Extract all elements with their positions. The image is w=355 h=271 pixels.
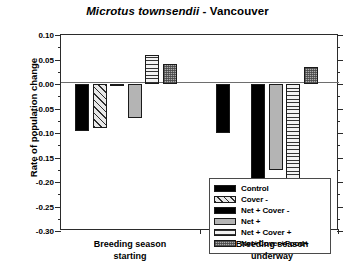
legend-swatch (214, 185, 236, 192)
y-tick-major-right (337, 84, 343, 85)
chart-figure: Microtus townsendii - Vancouver Rate of … (0, 0, 355, 271)
y-tick-minor-right (337, 72, 340, 73)
y-tick-major (55, 231, 61, 232)
y-tick-minor (58, 121, 61, 122)
y-tick-minor-right (337, 219, 340, 220)
y-tick-label: 0.10 (38, 31, 54, 40)
legend-swatch (214, 218, 236, 225)
bar (286, 84, 300, 187)
y-tick-major (55, 133, 61, 134)
y-tick-major (55, 182, 61, 183)
y-tick-minor-right (337, 47, 340, 48)
y-tick-major (55, 84, 61, 85)
y-tick-minor (58, 96, 61, 97)
y-tick-label: -0.10 (36, 129, 54, 138)
y-tick-label: 0.00 (38, 80, 54, 89)
y-tick-minor-right (337, 96, 340, 97)
y-tick-minor-right (337, 170, 340, 171)
legend-item: Net + Cover - (214, 205, 326, 216)
x-group-label-line: underway (202, 250, 342, 262)
bar (93, 84, 107, 128)
y-tick-major-right (337, 35, 343, 36)
x-tick (338, 229, 339, 234)
bar (110, 84, 124, 86)
x-group-label-line: starting (60, 250, 200, 262)
legend-label: Net + Cover - (241, 206, 289, 215)
legend-label: Control (241, 184, 269, 193)
zero-baseline (61, 82, 339, 83)
y-tick-minor (58, 219, 61, 220)
y-tick-label: -0.25 (36, 202, 54, 211)
x-group-label: Breeding seasonstarting (60, 238, 200, 262)
y-tick-label: -0.20 (36, 178, 54, 187)
legend-swatch (214, 196, 236, 203)
chart-title-suffix: - Vancouver (199, 5, 269, 17)
y-tick-minor-right (337, 145, 340, 146)
y-tick-minor (58, 72, 61, 73)
x-group-label: Breeding seasonunderway (202, 238, 342, 262)
bar (269, 84, 283, 170)
plot-area: 0.100.050.00-0.05-0.10-0.15-0.20-0.25-0.… (60, 34, 338, 230)
bar (163, 64, 177, 84)
y-tick-minor (58, 194, 61, 195)
x-group-label-line: Breeding season (60, 238, 200, 250)
legend-item: Cover - (214, 194, 326, 205)
y-tick-major-right (337, 182, 343, 183)
y-tick-label: -0.05 (36, 104, 54, 113)
bar (75, 84, 89, 131)
y-tick-major-right (337, 60, 343, 61)
legend-item: Net + (214, 216, 326, 227)
x-group-label-line: Breeding season (202, 238, 342, 250)
y-tick-major-right (337, 133, 343, 134)
bar (216, 84, 230, 133)
y-tick-major-right (337, 158, 343, 159)
y-tick-minor-right (337, 121, 340, 122)
legend-item: Control (214, 183, 326, 194)
bar (128, 84, 142, 118)
y-tick-major (55, 109, 61, 110)
y-tick-major (55, 158, 61, 159)
legend-label: Cover - (241, 195, 268, 204)
legend-swatch (214, 229, 236, 236)
y-tick-major-right (337, 109, 343, 110)
chart-title: Microtus townsendii - Vancouver (0, 5, 355, 17)
y-tick-major (55, 60, 61, 61)
y-tick-major (55, 35, 61, 36)
bar (304, 67, 318, 84)
y-tick-minor (58, 170, 61, 171)
y-tick-label: -0.15 (36, 153, 54, 162)
legend-item: Net + Cover + (214, 227, 326, 238)
y-tick-label: 0.05 (38, 55, 54, 64)
y-tick-label: -0.30 (36, 227, 54, 236)
legend-label: Net + Cover + (241, 228, 291, 237)
y-tick-minor (58, 47, 61, 48)
y-tick-minor-right (337, 194, 340, 195)
chart-title-species: Microtus townsendii (86, 5, 199, 17)
legend-label: Net + (241, 217, 260, 226)
legend-swatch (214, 207, 236, 214)
y-tick-major (55, 207, 61, 208)
bar (145, 55, 159, 84)
y-tick-major-right (337, 207, 343, 208)
y-tick-minor (58, 145, 61, 146)
x-tick (200, 229, 201, 234)
